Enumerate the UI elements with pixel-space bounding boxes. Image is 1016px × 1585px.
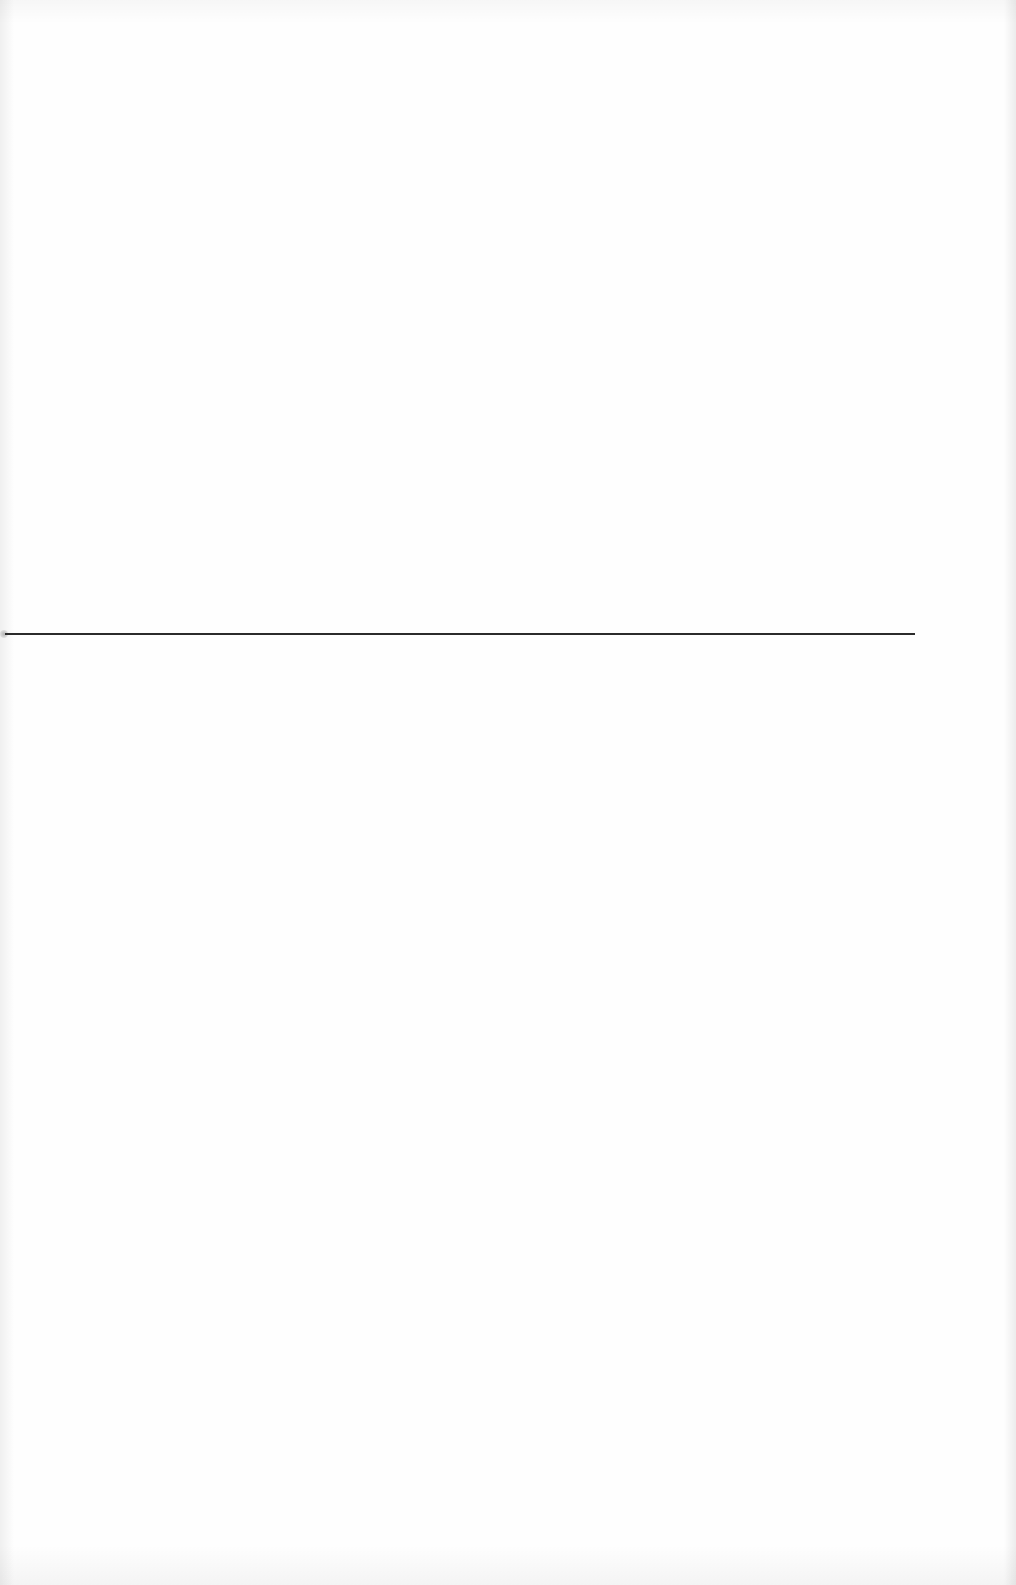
document-page — [0, 0, 1016, 1585]
horizontal-rule — [5, 633, 915, 635]
